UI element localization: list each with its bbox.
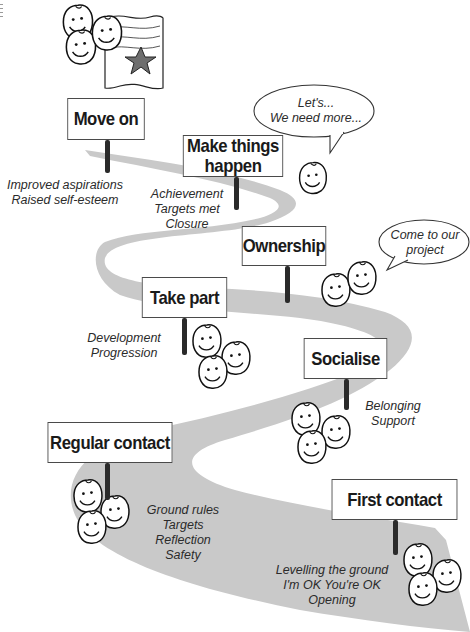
stage-notes-socialise: Belonging Support [358,399,428,429]
sign-label: Regular contact [50,433,170,453]
sign-label: Move on [74,109,139,129]
sign-take-part: Take part [142,277,227,318]
sign-post [393,520,398,555]
speech-bubble-come-text: Come to our project [382,228,468,258]
stage-notes-regular-contact: Ground rules Targets Reflection Safety [143,503,223,563]
sign-post [285,266,290,303]
stage-notes-make-things-happen: Achievement Targets met Closure [144,187,230,232]
sign-socialise: Socialise [304,338,388,379]
sign-label: Socialise [311,349,380,369]
speech-bubble-lets-text: Let's... We need more... [262,96,370,126]
sign-label: Take part [150,288,219,308]
sign-post [105,463,110,500]
sign-move-on: Move on [67,98,144,140]
stage-notes-first-contact: Levelling the ground I'm OK You're OK Op… [272,563,392,608]
sign-post [344,379,349,410]
sign-label: Make things happen [187,136,279,176]
sign-ownership: Ownership [242,226,326,266]
road-illustration [0,0,470,632]
sign-post [182,318,187,355]
sign-label: First contact [347,490,442,510]
sign-label: Ownership [243,236,325,256]
stage-notes-move-on: Improved aspirations Raised self-esteem [5,178,125,208]
sign-post [105,140,110,173]
stage-notes-take-part: Development Progression [84,331,164,361]
sign-post [234,177,239,210]
sign-make-things-happen: Make things happen [183,135,283,177]
sign-first-contact: First contact [332,479,458,520]
sign-regular-contact: Regular contact [48,422,173,463]
